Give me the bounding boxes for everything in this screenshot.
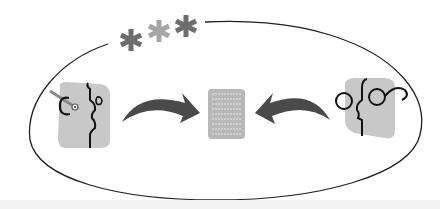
bottom-strip [0, 200, 440, 209]
document-icon [208, 89, 245, 139]
asterisk-icon [149, 20, 169, 42]
profile-face-with-spectacles-icon [336, 78, 407, 138]
asterisk-icon [176, 15, 196, 37]
stars-group [121, 15, 196, 51]
diagram-canvas [0, 0, 440, 209]
curved-arrow-right-icon [122, 93, 200, 123]
curved-arrow-left-icon [255, 93, 330, 124]
asterisk-icon [121, 29, 141, 51]
profile-face-with-monocle-icon [50, 82, 110, 148]
